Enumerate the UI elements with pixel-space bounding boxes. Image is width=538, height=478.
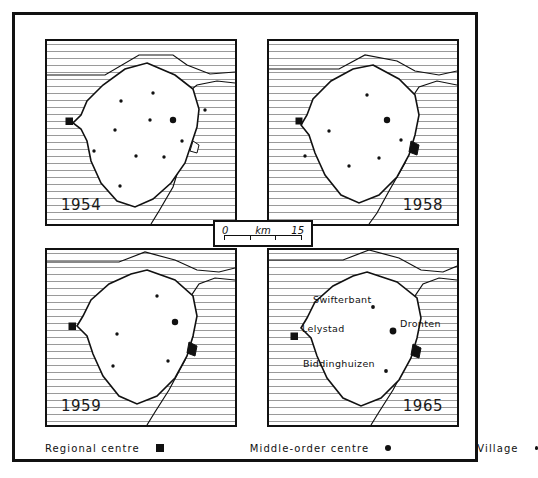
year-label-1958: 1958 bbox=[403, 196, 443, 214]
filled-circle-small-icon bbox=[535, 446, 538, 450]
map-panel-1959: 1959 bbox=[45, 248, 237, 427]
place-label-swifterbant: Swifterbant bbox=[313, 294, 372, 305]
map-panel-1965: Swifterbant Lelystad Dronten Biddinghuiz… bbox=[267, 248, 459, 427]
scale-tick-3 bbox=[301, 235, 302, 240]
scale-tick-0 bbox=[224, 235, 225, 240]
legend-entry-middle-order-centre: Middle-order centre bbox=[250, 443, 392, 454]
legend-label-middle-order-centre: Middle-order centre bbox=[250, 443, 370, 454]
filled-circle-medium-icon bbox=[385, 445, 391, 451]
year-label-1959: 1959 bbox=[61, 397, 101, 415]
place-label-dronten: Dronten bbox=[400, 318, 441, 329]
legend-entry-regional-centre: Regional centre bbox=[45, 443, 164, 454]
year-label-1965: 1965 bbox=[403, 397, 443, 415]
map-panel-1958: 1958 bbox=[267, 39, 459, 226]
scale-tick-1 bbox=[250, 235, 251, 240]
filled-square-icon bbox=[156, 444, 164, 452]
scale-bar: 0 15 km bbox=[213, 220, 313, 247]
scale-bar-ticks bbox=[224, 235, 302, 242]
place-label-lelystad: Lelystad bbox=[302, 323, 345, 334]
legend-entry-village: Village bbox=[477, 443, 538, 454]
place-label-biddinghuizen: Biddinghuizen bbox=[303, 358, 375, 369]
figure-legend: Regional centre Middle-order centre Vill… bbox=[29, 433, 467, 463]
map-panel-1954: 1954 bbox=[45, 39, 237, 226]
scale-axis-line bbox=[224, 235, 302, 236]
figure-outer-frame: 1954 bbox=[12, 12, 478, 462]
year-label-1954: 1954 bbox=[61, 196, 101, 214]
scale-tick-2 bbox=[275, 235, 276, 240]
legend-label-regional-centre: Regional centre bbox=[45, 443, 140, 454]
legend-label-village: Village bbox=[477, 443, 518, 454]
